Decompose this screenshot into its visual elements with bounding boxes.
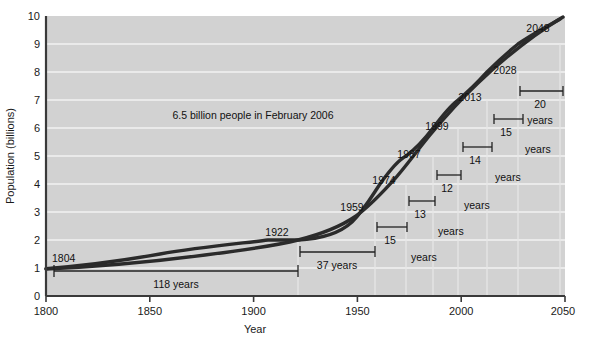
y-tick-7: 7 (34, 94, 40, 106)
span-15-years-2-unit: years (525, 143, 551, 155)
span-14-years-number: 14 (469, 154, 481, 166)
y-tick-1: 1 (34, 262, 40, 274)
x-tick-1850: 1850 (138, 305, 162, 317)
span-118-years: 118 years (153, 278, 198, 290)
label-1959: 1959 (340, 201, 364, 213)
span-13-years-number: 13 (414, 208, 426, 220)
y-tick-6: 6 (34, 122, 40, 134)
span-15-years-2-number: 15 (500, 126, 512, 138)
label-2013: 2013 (458, 91, 482, 103)
span-12-years-number: 12 (441, 182, 453, 194)
label-1987: 1987 (397, 148, 421, 160)
x-tick-1900: 1900 (241, 305, 265, 317)
span-37-years: 37 years (317, 259, 357, 271)
span-15-years-1-unit: years (411, 251, 437, 263)
x-tick-2050: 2050 (551, 305, 575, 317)
label-2048: 2048 (526, 22, 550, 34)
population-growth-chart: 10 9 8 7 6 5 4 3 2 1 0 1800 1850 1900 19… (0, 0, 589, 341)
label-2028: 2028 (493, 64, 517, 76)
span-12-years-unit: years (464, 199, 490, 211)
y-tick-8: 8 (34, 66, 40, 78)
label-1922: 1922 (265, 226, 289, 238)
span-15-years-1-number: 15 (384, 234, 396, 246)
label-1974: 1974 (372, 174, 396, 186)
label-1999: 1999 (425, 120, 449, 132)
chart-svg: 10 9 8 7 6 5 4 3 2 1 0 1800 1850 1900 19… (0, 0, 589, 341)
x-axis-title: Year (244, 323, 267, 335)
x-tick-1800: 1800 (34, 305, 58, 317)
y-tick-3: 3 (34, 206, 40, 218)
span-20-years-unit: years (527, 114, 553, 126)
y-tick-10: 10 (28, 10, 40, 22)
x-tick-2000: 2000 (449, 305, 473, 317)
y-axis-title: Population (billions) (4, 108, 16, 204)
x-tick-1950: 1950 (345, 305, 369, 317)
label-1804: 1804 (52, 252, 76, 264)
span-14-years-unit: years (495, 171, 521, 183)
y-tick-5: 5 (34, 150, 40, 162)
span-20-years-number: 20 (534, 98, 546, 110)
y-tick-0: 0 (34, 290, 40, 302)
y-tick-9: 9 (34, 38, 40, 50)
y-tick-2: 2 (34, 234, 40, 246)
y-tick-4: 4 (34, 178, 40, 190)
annotation-65-billion: 6.5 billion people in February 2006 (172, 109, 333, 121)
span-13-years-unit: years (438, 225, 464, 237)
